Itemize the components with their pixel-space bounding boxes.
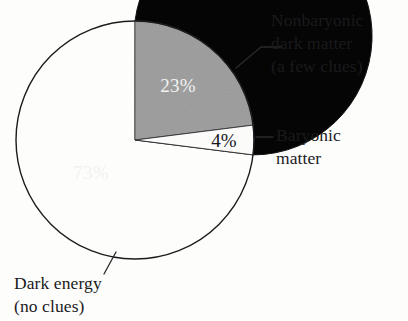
slice-value-dark-energy: 73% (73, 162, 108, 183)
callout-nonbaryonic-line-2: dark matter (271, 32, 363, 55)
callout-dark-energy-line-1: Dark energy (14, 272, 102, 295)
callout-dark-energy-line-2: (no clues) (14, 295, 102, 318)
callout-label-baryonic-matter: Baryonic matter (276, 124, 341, 170)
callout-nonbaryonic-line-3: (a few clues) (271, 55, 363, 78)
slice-value-nonbaryonic: 23% (160, 75, 195, 96)
pie-chart-figure: 23% 4% 73% Nonbaryonic dark matter (a fe… (0, 0, 408, 321)
callout-label-dark-energy: Dark energy (no clues) (14, 272, 102, 318)
callout-label-nonbaryonic-dark-matter: Nonbaryonic dark matter (a few clues) (271, 9, 363, 78)
callout-baryonic-line-2: matter (276, 147, 341, 170)
callout-nonbaryonic-line-1: Nonbaryonic (271, 9, 363, 32)
slice-value-baryonic: 4% (211, 130, 237, 151)
callout-baryonic-line-1: Baryonic (276, 124, 341, 147)
